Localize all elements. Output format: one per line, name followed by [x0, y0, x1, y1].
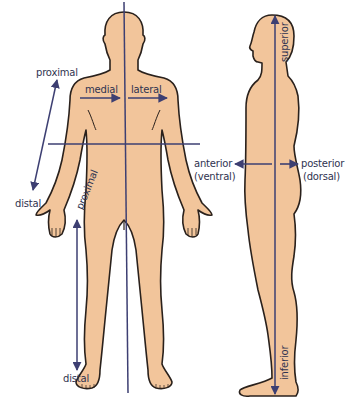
- ventral-label: (ventral): [194, 171, 235, 182]
- arm-proximal-distal-arrow: [33, 80, 57, 190]
- superior-label: superior: [279, 22, 290, 62]
- lateral-view-figure: [239, 15, 300, 396]
- leg-distal-label: distal: [63, 373, 89, 384]
- anatomy-diagram: proximal distal medial lateral proximal …: [0, 0, 352, 407]
- side-body-outline: [239, 15, 300, 396]
- inferior-label: inferior: [279, 346, 290, 380]
- dorsal-label: (dorsal): [303, 171, 340, 182]
- posterior-label: posterior: [301, 158, 344, 169]
- anterior-label: anterior: [194, 158, 232, 169]
- arm-proximal-label: proximal: [36, 67, 78, 78]
- arm-distal-label: distal: [15, 198, 41, 209]
- lateral-label: lateral: [131, 84, 162, 95]
- medial-label: medial: [85, 84, 118, 95]
